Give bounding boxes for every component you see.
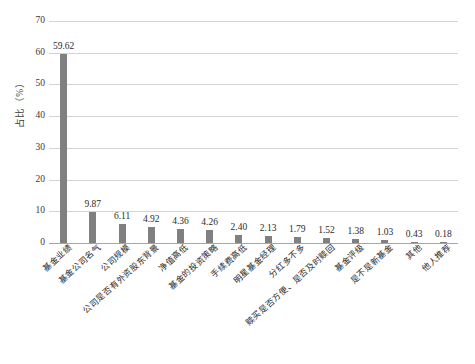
bar-column: 59.62: [49, 42, 78, 243]
bar-column: 4.36: [166, 217, 195, 243]
y-axis-tick-label: 20: [3, 175, 45, 185]
x-axis-tick-label-text: 其他: [403, 243, 424, 263]
x-axis-tick-label: 其他: [403, 243, 424, 263]
bar-column: 1.52: [312, 226, 341, 243]
gridline: [49, 84, 458, 85]
y-axis-tick-group: 010203040506070: [0, 21, 45, 243]
bar-value-label: 1.38: [347, 227, 364, 237]
bar-value-label: 2.40: [231, 223, 248, 233]
plot-area: 59.629.876.114.924.364.262.402.131.791.5…: [49, 21, 458, 243]
y-axis-tick-label: 60: [3, 48, 45, 58]
bar-column: 2.40: [224, 223, 253, 243]
x-axis-tick-label: 他人推荐: [419, 243, 453, 275]
bar-value-label: 1.52: [318, 226, 335, 236]
bar-value-label: 4.92: [143, 215, 160, 225]
x-axis-label-group: 基金业绩基金公司名气公司规模公司是否有外资股东背景净值高低基金的投资策略手续费高…: [49, 243, 458, 363]
gridline: [49, 116, 458, 117]
bar-value-label: 9.87: [84, 200, 101, 210]
bar-value-label: 6.11: [114, 212, 130, 222]
bar-column: 6.11: [107, 212, 136, 243]
bar-value-label: 0.43: [406, 230, 423, 240]
y-axis-tick-label: 0: [3, 238, 45, 248]
bar-value-label: 59.62: [53, 42, 74, 52]
bar: [206, 230, 213, 244]
bar-chart: 010203040506070 占比（%） 59.629.876.114.924…: [0, 0, 475, 364]
bar: [60, 54, 67, 243]
bar-column: 0.18: [429, 230, 458, 243]
bar-column: 1.38: [341, 227, 370, 243]
bar-value-label: 1.79: [289, 225, 306, 235]
bar: [89, 212, 96, 243]
bar-value-label: 2.13: [260, 224, 277, 234]
bar-column: 0.43: [400, 230, 429, 243]
y-axis-title: 占比（%）: [12, 78, 26, 128]
y-axis-tick-label: 10: [3, 207, 45, 217]
bar-column: 9.87: [78, 200, 107, 243]
bar: [119, 224, 126, 243]
y-axis-tick-label: 70: [3, 16, 45, 26]
y-axis-tick-label: 30: [3, 143, 45, 153]
bar-value-label: 0.18: [435, 230, 452, 240]
gridline: [49, 53, 458, 54]
x-axis-tick-label-text: 他人推荐: [419, 243, 453, 275]
bar-column: 2.13: [254, 224, 283, 243]
bar-column: 1.79: [283, 225, 312, 243]
bar: [148, 227, 155, 243]
bar-value-label: 1.03: [377, 228, 394, 238]
bar-value-label: 4.36: [172, 217, 189, 227]
gridline: [49, 180, 458, 181]
bar-column: 4.92: [137, 215, 166, 243]
bar-value-label: 4.26: [201, 218, 218, 228]
bar-column: 4.26: [195, 218, 224, 244]
gridline: [49, 148, 458, 149]
bar-column: 1.03: [370, 228, 399, 243]
gridline: [49, 21, 458, 22]
